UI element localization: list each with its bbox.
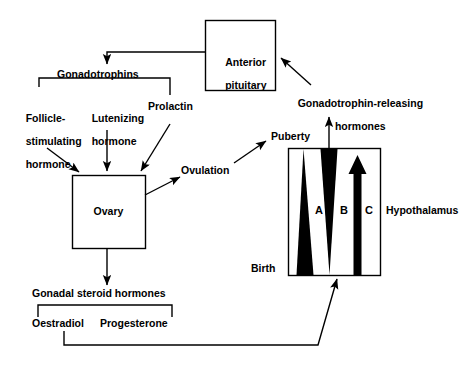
fsh-line1: Follicle-: [26, 112, 66, 124]
connector-pituitary-to-gonadotrophins: [107, 52, 205, 64]
gnrh-line2: hormones: [335, 120, 386, 132]
ovary-label: Ovary: [72, 206, 145, 218]
puberty-label: Puberty: [271, 131, 310, 143]
shape-a-letter: A: [315, 204, 323, 216]
bracket-gonadotrophins: [39, 78, 170, 95]
ovulation-label: Ovulation: [181, 165, 229, 177]
shape-b-letter: B: [340, 204, 348, 216]
shape-c-letter: C: [365, 204, 373, 216]
hypothalamus-label: Hypothalamus: [386, 205, 458, 217]
gonadotrophins-label: Gonadotrophins: [57, 69, 139, 81]
oestradiol-label: Oestradiol: [32, 318, 84, 330]
birth-label: Birth: [251, 263, 276, 275]
connector-prolactin-to-ovary: [141, 124, 170, 171]
anterior-pituitary-line2: pituitary: [225, 79, 266, 91]
connector-ovulation-to-puberty: [234, 141, 266, 163]
anterior-pituitary-label: Anterior pituitary: [205, 45, 275, 103]
anterior-pituitary-line1: Anterior: [225, 56, 266, 68]
gonadal-steroid-hormones-label: Gonadal steroid hormones: [32, 288, 166, 300]
lh-line2: hormone: [92, 135, 137, 147]
connector-gnrh-to-pituitary: [281, 58, 311, 85]
bracket-gonadal-steroids: [38, 305, 172, 317]
lutenizing-hormone-label: Lutenizing hormone: [80, 101, 136, 159]
follicle-stimulating-hormone-label: Follicle- stimulating hormone: [14, 101, 82, 182]
lh-line1: Lutenizing: [92, 112, 145, 124]
diagram-canvas: Anterior pituitary Ovary Gonadotrophins …: [0, 0, 473, 368]
fsh-line3: hormone: [26, 158, 71, 170]
prolactin-label: Prolactin: [148, 101, 193, 113]
connector-ovary-to-ovulation: [145, 177, 180, 195]
fsh-line2: stimulating: [26, 135, 82, 147]
progesterone-label: Progesterone: [100, 318, 168, 330]
gnrh-line1: Gonadotrophin-releasing: [298, 97, 423, 109]
